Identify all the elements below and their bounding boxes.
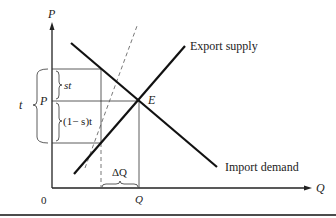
one-minus-s-t-label: (1− s)t [63, 115, 92, 128]
brace-st [56, 71, 62, 99]
y-axis-label: P [47, 7, 56, 21]
brace-delta-Q [102, 181, 138, 187]
delta-Q-label: ΔQ [112, 166, 127, 178]
quantity-label: Q [135, 193, 143, 205]
x-axis-label: Q [316, 181, 325, 195]
export-supply-curve [74, 46, 185, 174]
import-demand-curve [71, 43, 217, 167]
y-axis-arrow-icon [50, 22, 55, 30]
export-supply-label: Export supply [190, 39, 258, 53]
tariff-diagram: P Q 0 P Q t st (1− s)t ΔQ E Export suppl… [0, 0, 336, 218]
price-label: P [39, 94, 48, 108]
tariff-t-label: t [19, 98, 23, 112]
brace-one-minus-s-t [56, 103, 62, 141]
import-demand-label: Import demand [225, 160, 299, 174]
x-axis-arrow-icon [304, 186, 312, 191]
origin-label: 0 [41, 194, 47, 206]
shifted-supply-dashed [85, 26, 137, 168]
equilibrium-E-label: E [147, 93, 156, 107]
st-label: st [64, 79, 72, 91]
